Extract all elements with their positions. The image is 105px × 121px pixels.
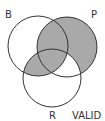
- label-p: P: [91, 9, 97, 20]
- label-r: R: [49, 110, 56, 121]
- verdict-label: VALID: [72, 110, 102, 121]
- label-b: B: [5, 9, 12, 20]
- venn-diagram: B P R VALID: [0, 0, 105, 121]
